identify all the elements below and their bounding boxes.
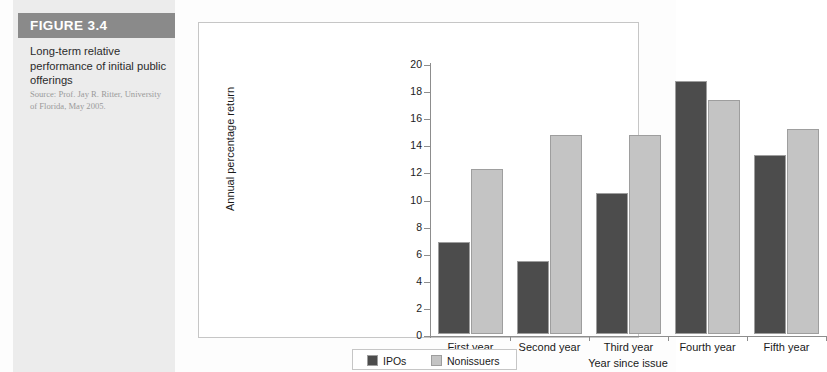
y-axis-tick (424, 173, 430, 174)
legend-swatch-icon (431, 355, 442, 366)
y-axis-tick (424, 92, 430, 93)
legend-label: IPOs (383, 355, 406, 367)
y-axis-tick-label: 8 (396, 221, 422, 233)
x-axis-category-label: Third year (589, 341, 668, 353)
caption-column: FIGURE 3.4 Long-term relative performanc… (13, 0, 175, 372)
legend-item-nonissuers[interactable]: Nonissuers (431, 354, 500, 367)
y-axis-tick (424, 228, 430, 229)
y-axis-tick-label: 6 (396, 248, 422, 260)
figure-number-band: FIGURE 3.4 (18, 13, 175, 38)
y-axis-tick-label: 0 (396, 329, 422, 341)
chart-frame: 02468101214161820 Annual percentage retu… (198, 22, 639, 338)
y-axis-tick-label: 14 (396, 139, 422, 151)
y-axis-tick-label: 4 (396, 275, 422, 287)
y-axis-tick (424, 146, 430, 147)
y-axis-tick (424, 119, 430, 120)
x-axis-category-label: Second year (510, 341, 589, 353)
x-axis-category-label: Fifth year (747, 341, 826, 353)
y-axis-title: Annual percentage return (224, 54, 236, 244)
x-axis-category-label: Fourth year (668, 341, 747, 353)
y-axis-tick (424, 201, 430, 202)
y-axis-tick (424, 255, 430, 256)
bar-ipos-third-year (596, 193, 628, 334)
figure-number-label: FIGURE 3.4 (30, 18, 108, 33)
figure-caption-title: Long-term relative performance of initia… (30, 44, 170, 88)
bar-nonissuers-first-year (471, 169, 503, 334)
x-axis-line (430, 336, 826, 337)
chart-legend: IPOsNonissuers (352, 349, 517, 370)
y-axis-tick-label: 16 (396, 112, 422, 124)
figure-source-note: Source: Prof. Jay R. Ritter, University … (30, 89, 170, 112)
y-axis-tick-label: 20 (396, 58, 422, 70)
bar-nonissuers-fourth-year (708, 100, 740, 334)
legend-swatch-icon (367, 355, 378, 366)
y-axis-tick (424, 309, 430, 310)
y-axis-tick-label: 12 (396, 166, 422, 178)
bar-ipos-fifth-year (754, 155, 786, 334)
y-axis-tick-label: 18 (396, 85, 422, 97)
bar-nonissuers-fifth-year (787, 129, 819, 334)
legend-item-ipos[interactable]: IPOs (367, 354, 406, 367)
bar-ipos-first-year (438, 242, 470, 334)
y-axis-tick (424, 65, 430, 66)
y-axis-tick (424, 282, 430, 283)
legend-label: Nonissuers (447, 355, 500, 367)
y-axis-tick-label: 10 (396, 194, 422, 206)
y-axis-tick-label: 2 (396, 302, 422, 314)
y-axis-tick (424, 336, 430, 337)
y-axis-line (430, 63, 431, 338)
bar-ipos-second-year (517, 261, 549, 334)
bar-nonissuers-third-year (629, 135, 661, 334)
bar-ipos-fourth-year (675, 81, 707, 334)
bar-nonissuers-second-year (550, 135, 582, 334)
